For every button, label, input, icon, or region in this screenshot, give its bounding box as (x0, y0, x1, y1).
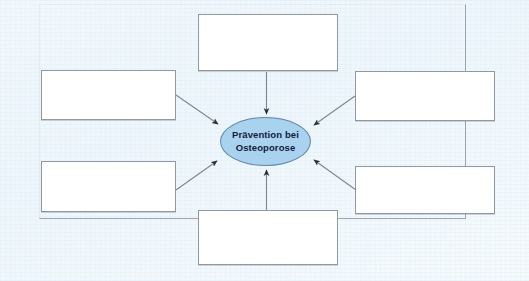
center-topic-label: Prävention bei Osteoporose (232, 129, 299, 153)
node-box-lower-right[interactable] (355, 166, 495, 214)
node-box-upper-left[interactable] (41, 70, 176, 120)
center-topic-label-line2: Osteoporose (236, 142, 296, 153)
node-box-lower-right-text (356, 167, 494, 213)
node-box-upper-left-text (42, 71, 175, 119)
node-box-top[interactable] (198, 14, 338, 71)
center-topic-ellipse[interactable]: Prävention bei Osteoporose (220, 117, 311, 166)
node-box-bottom[interactable] (198, 210, 338, 265)
node-box-top-text (199, 15, 337, 70)
worksheet-canvas: Prävention bei Osteoporose (0, 0, 529, 281)
node-box-upper-right[interactable] (355, 71, 495, 121)
node-box-upper-right-text (356, 72, 494, 120)
node-box-bottom-text (199, 211, 337, 264)
center-topic-label-line1: Prävention bei (232, 129, 299, 140)
node-box-lower-left[interactable] (41, 161, 176, 212)
node-box-lower-left-text (42, 162, 175, 211)
